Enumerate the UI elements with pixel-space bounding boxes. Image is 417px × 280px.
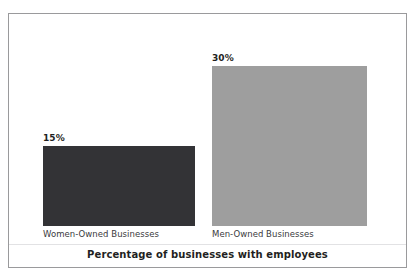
- category-label-men-owned-businesses: Men-Owned Businesses: [212, 230, 314, 239]
- chart-title: Percentage of businesses with employees: [9, 250, 406, 260]
- bar-value-label-women-owned-businesses: 15%: [43, 134, 65, 143]
- bar-group-men-owned-businesses[interactable]: 30%: [212, 66, 367, 226]
- bar-value-label-men-owned-businesses: 30%: [212, 54, 234, 63]
- category-label-women-owned-businesses: Women-Owned Businesses: [43, 230, 159, 239]
- bar-women-owned-businesses[interactable]: [43, 146, 195, 226]
- caption-divider: [9, 244, 406, 245]
- plot-area: 15% 30%: [9, 14, 406, 226]
- chart-figure: 15% 30% Women-Owned Businesses Men-Owned…: [8, 13, 407, 268]
- bar-group-women-owned-businesses[interactable]: 15%: [43, 146, 195, 226]
- bar-men-owned-businesses[interactable]: [212, 66, 367, 226]
